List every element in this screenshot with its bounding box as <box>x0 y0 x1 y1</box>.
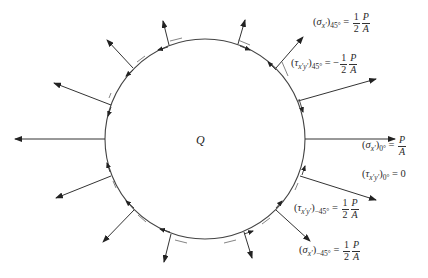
center-label: Q <box>196 133 205 148</box>
annotation-sigma-45: (σx')45° = 12PA <box>313 12 371 34</box>
annotation-sigma-minus-45: (σx')−45° = 12PA <box>299 240 361 262</box>
arrow-202deg <box>56 176 111 198</box>
annotation-tau-0: (τx'y')0° = 0 <box>362 169 406 182</box>
annotation-tau-minus-45: (τx'y')−45° = 12PA <box>294 198 360 220</box>
arrow-112deg <box>163 21 169 45</box>
annotation-sigma-0: (σx')0° = PA <box>362 135 407 157</box>
annotation-tau-45: (τx'y')45° = −12PA <box>291 53 358 75</box>
arrow-225deg <box>103 210 134 242</box>
arrow-292deg <box>244 232 252 258</box>
arrow-248deg <box>164 234 171 262</box>
arrow-135deg <box>107 40 133 68</box>
arrow-158deg <box>54 83 111 105</box>
arrow-22deg <box>298 79 376 101</box>
